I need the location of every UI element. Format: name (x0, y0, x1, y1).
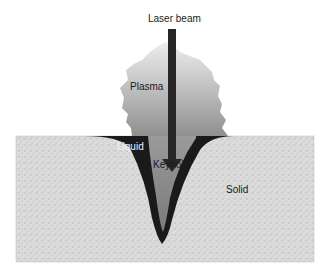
plasma-label: Plasma (130, 81, 163, 92)
liquid-label: Liquid (117, 141, 144, 152)
keyhole-label: Keyhole (153, 159, 189, 170)
keyhole-diagram (0, 0, 332, 277)
solid-label: Solid (226, 184, 248, 195)
laser-beam-shaft (168, 29, 176, 159)
laser-beam-label: Laser beam (148, 13, 201, 24)
